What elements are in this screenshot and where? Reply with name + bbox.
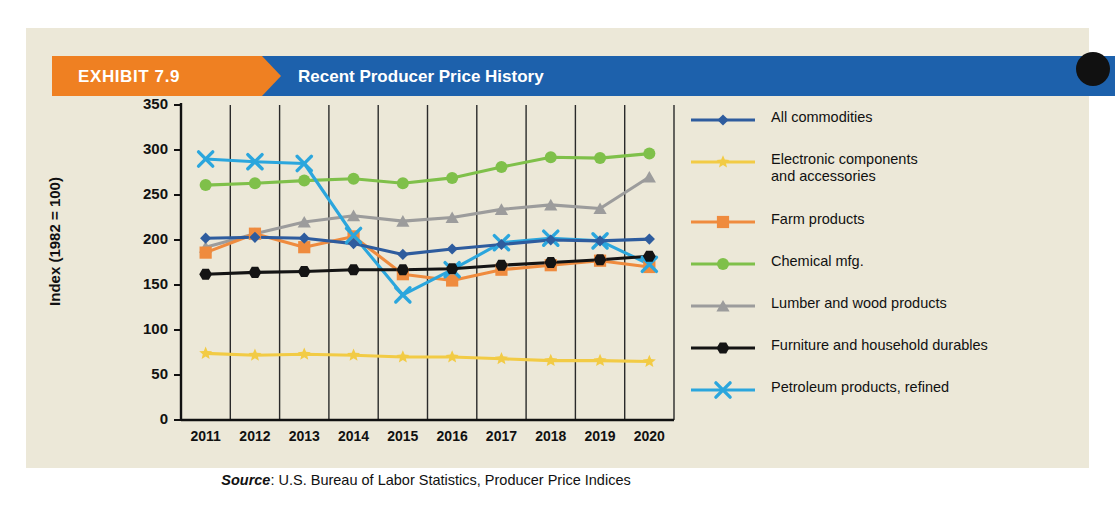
- data-point-square: [717, 216, 729, 228]
- legend-label-line1: All commodities: [771, 109, 873, 126]
- legend-label-line1: Lumber and wood products: [771, 295, 947, 312]
- data-point-circle: [643, 148, 655, 160]
- legend-label: Farm products: [771, 211, 864, 228]
- data-point-diamond: [200, 233, 211, 244]
- x-tick-label: 2013: [280, 428, 328, 444]
- legend-label: Petroleum products, refined: [771, 379, 949, 396]
- x-tick-label: 2014: [330, 428, 378, 444]
- data-point-diamond: [717, 114, 728, 125]
- data-point-star: [347, 348, 360, 360]
- data-point-star: [495, 352, 508, 364]
- data-point-circle: [717, 258, 729, 270]
- legend-item[interactable]: Chemical mfg.: [689, 254, 1089, 276]
- data-point-hexagon: [717, 342, 730, 353]
- legend-item[interactable]: All commodities: [689, 110, 1089, 132]
- x-tick-label: 2012: [231, 428, 279, 444]
- legend-swatch-hexagon-icon: [689, 338, 757, 358]
- data-point-circle: [249, 177, 261, 189]
- y-tick-label: 250: [122, 185, 168, 202]
- legend-item[interactable]: Farm products: [689, 212, 1089, 234]
- legend-swatch-triangle-icon: [689, 296, 757, 316]
- y-tick-label: 350: [122, 95, 168, 112]
- data-point-star: [446, 350, 459, 362]
- x-tick-label: 2019: [576, 428, 624, 444]
- x-tick-label: 2020: [625, 428, 673, 444]
- data-point-star: [199, 347, 212, 359]
- legend-label-line1: Chemical mfg.: [771, 253, 864, 270]
- legend-label: All commodities: [771, 109, 873, 126]
- data-point-circle: [397, 177, 409, 189]
- legend-label: Electronic componentsand accessories: [771, 151, 918, 185]
- legend-item[interactable]: Electronic componentsand accessories: [689, 152, 1089, 192]
- data-point-star: [643, 355, 656, 367]
- data-point-diamond: [447, 243, 458, 254]
- legend-label: Furniture and household durables: [771, 337, 988, 354]
- source-text: U.S. Bureau of Labor Statistics, Produce…: [279, 472, 631, 488]
- legend-item[interactable]: Furniture and household durables: [689, 338, 1089, 360]
- x-tick-label: 2011: [182, 428, 230, 444]
- legend-label-line1: Farm products: [771, 211, 864, 228]
- source-colon: :: [270, 472, 278, 488]
- legend-label: Chemical mfg.: [771, 253, 864, 270]
- data-point-circle: [298, 175, 310, 187]
- legend-label: Lumber and wood products: [771, 295, 947, 312]
- legend-label-line1: Furniture and household durables: [771, 337, 988, 354]
- data-point-x: [396, 288, 410, 302]
- y-tick-label: 300: [122, 140, 168, 157]
- chart-legend: All commoditiesElectronic componentsand …: [689, 110, 1089, 422]
- legend-item[interactable]: Petroleum products, refined: [689, 380, 1089, 402]
- data-point-triangle: [643, 171, 656, 183]
- x-tick-label: 2016: [428, 428, 476, 444]
- data-point-star: [717, 155, 730, 167]
- data-point-hexagon: [199, 269, 212, 280]
- page-cropped-text: [20, 488, 580, 504]
- data-point-circle: [348, 173, 360, 185]
- x-tick-label: 2018: [527, 428, 575, 444]
- data-point-circle: [200, 179, 212, 191]
- source-prefix: Source: [221, 472, 270, 488]
- legend-swatch-x-icon: [689, 380, 757, 400]
- data-point-diamond: [397, 249, 408, 260]
- x-tick-label: 2017: [477, 428, 525, 444]
- legend-item[interactable]: Lumber and wood products: [689, 296, 1089, 318]
- y-tick-label: 100: [122, 320, 168, 337]
- legend-label-line1: Petroleum products, refined: [771, 379, 949, 396]
- exhibit-panel: EXHIBIT 7.9 Recent Producer Price Histor…: [26, 28, 1089, 468]
- legend-swatch-star-icon: [689, 152, 757, 172]
- data-point-hexagon: [298, 266, 311, 277]
- data-point-star: [594, 354, 607, 366]
- data-point-star: [248, 348, 261, 360]
- x-tick-label: 2015: [379, 428, 427, 444]
- chart-source-note: Source: U.S. Bureau of Labor Statistics,…: [156, 472, 696, 488]
- legend-swatch-diamond-icon: [689, 110, 757, 130]
- data-point-hexagon: [249, 267, 262, 278]
- data-point-square: [200, 247, 212, 259]
- y-tick-label: 0: [122, 410, 168, 427]
- data-point-hexagon: [347, 264, 360, 275]
- data-point-circle: [594, 152, 606, 164]
- y-tick-label: 150: [122, 275, 168, 292]
- legend-label-line2: and accessories: [771, 168, 918, 185]
- data-point-circle: [495, 161, 507, 173]
- y-tick-label: 50: [122, 365, 168, 382]
- page-edge-bullet-icon: [1076, 52, 1110, 86]
- legend-swatch-circle-icon: [689, 254, 757, 274]
- data-point-star: [298, 348, 311, 360]
- data-point-circle: [446, 172, 458, 184]
- page-top-margin: [26, 0, 1089, 28]
- data-point-star: [544, 354, 557, 366]
- y-tick-label: 200: [122, 230, 168, 247]
- data-point-diamond: [644, 234, 655, 245]
- data-point-star: [396, 350, 409, 362]
- legend-label-line1: Electronic components: [771, 151, 918, 168]
- legend-swatch-square-icon: [689, 212, 757, 232]
- data-point-circle: [545, 151, 557, 163]
